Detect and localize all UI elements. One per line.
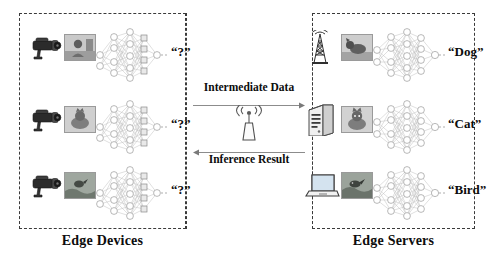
partial-dnn-graphic xyxy=(94,22,169,88)
input-image-thumbnail xyxy=(341,34,373,61)
downlink-arrow xyxy=(193,143,305,152)
edge-servers-caption: Edge Servers xyxy=(312,233,475,249)
partial-dnn-graphic xyxy=(94,94,169,160)
cell-tower-icon xyxy=(301,30,341,64)
inference-output-label: “?” xyxy=(171,44,191,60)
input-image-thumbnail xyxy=(341,172,373,199)
inference-output-label: “?” xyxy=(171,116,191,132)
diagram-canvas: “?” xyxy=(0,0,494,261)
input-image-thumbnail xyxy=(341,106,373,133)
uplink-arrow xyxy=(193,96,305,105)
inference-output-label: “Bird” xyxy=(448,182,486,198)
inference-output-label: “?” xyxy=(171,182,191,198)
wireless-access-point-icon xyxy=(228,105,270,143)
uplink-label: Intermediate Data xyxy=(186,81,312,93)
edge-devices-caption: Edge Devices xyxy=(19,233,186,249)
laptop-icon xyxy=(301,168,341,202)
full-dnn-graphic xyxy=(371,94,446,160)
input-image-thumbnail xyxy=(64,106,96,133)
inference-output-label: “Cat” xyxy=(448,116,481,132)
security-camera-icon xyxy=(24,102,64,136)
input-image-thumbnail xyxy=(64,34,96,61)
inference-output-label: “Dog” xyxy=(448,44,483,60)
security-camera-icon xyxy=(24,168,64,202)
input-image-thumbnail xyxy=(64,172,96,199)
full-dnn-graphic xyxy=(371,160,446,226)
full-dnn-graphic xyxy=(371,22,446,88)
security-camera-icon xyxy=(24,30,64,64)
downlink-label: Inference Result xyxy=(186,153,312,165)
server-tower-icon xyxy=(301,102,341,136)
partial-dnn-graphic xyxy=(94,160,169,226)
